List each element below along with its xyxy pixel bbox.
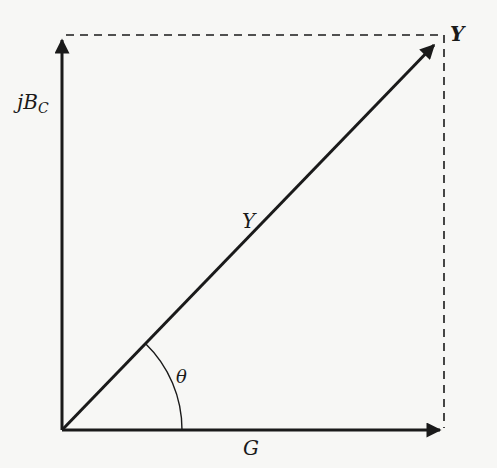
jbc-label-main: jB <box>17 90 38 114</box>
y-vector-arrow <box>62 45 434 430</box>
y-mid-label: Y <box>242 211 255 231</box>
jbc-label-sub: C <box>38 100 49 116</box>
g-label: G <box>243 438 259 458</box>
theta-label: θ <box>176 368 187 386</box>
diagram-graphics <box>0 0 497 468</box>
phasor-diagram: Y Y jBC G θ <box>0 0 497 468</box>
jbc-label: jBC <box>17 92 49 115</box>
y-tip-label: Y <box>450 24 464 44</box>
